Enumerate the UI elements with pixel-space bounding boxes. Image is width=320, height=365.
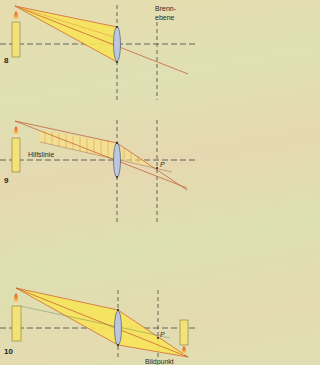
figure-10 (0, 288, 195, 360)
image-candle (180, 320, 188, 345)
optics-diagram (0, 0, 201, 365)
flame-icon (14, 11, 18, 21)
candle (12, 22, 20, 57)
focal-point-label: P (160, 161, 165, 168)
candle (12, 138, 20, 172)
lens (114, 143, 121, 178)
figure-number: 9 (4, 176, 8, 185)
figure-number: 8 (4, 56, 8, 65)
flame-icon (14, 126, 18, 136)
lens (114, 27, 121, 62)
lens (115, 311, 122, 346)
focal-point-label: P (160, 331, 165, 338)
candle (12, 306, 21, 341)
focal-plane-label-line2: ebene (155, 14, 174, 21)
focal-plane-label-line1: Brenn- (155, 5, 176, 12)
image-point-label: Bildpunkt (145, 358, 174, 365)
helper-line-label: Hilfslinie (28, 151, 54, 158)
figure-number: 10 (4, 347, 13, 356)
figure-9 (0, 120, 195, 225)
flame-icon (14, 293, 18, 304)
